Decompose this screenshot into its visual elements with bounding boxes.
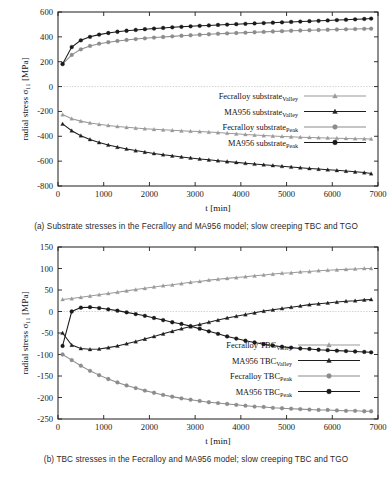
y-axis-tick-label: 0 (49, 82, 53, 92)
series-marker (216, 32, 220, 36)
series-marker (298, 347, 302, 351)
legend-label: MA956 TBCPeak (236, 388, 293, 398)
series-marker (362, 350, 366, 354)
series-marker (198, 33, 202, 37)
series-marker (335, 409, 339, 413)
y-axis-label: radial stress σ₁₁ [MPa] (20, 57, 30, 140)
series-marker (70, 358, 74, 362)
series-marker (369, 17, 373, 21)
series-marker (298, 20, 302, 24)
series-marker (152, 36, 156, 40)
series-marker (170, 320, 174, 324)
y-axis-tick-label: -150 (37, 371, 53, 381)
series-marker (317, 348, 321, 352)
x-axis-label: t [min] (205, 436, 230, 446)
series-marker (189, 33, 193, 37)
series-marker (253, 30, 257, 34)
series-marker (180, 25, 184, 29)
series-marker (335, 18, 339, 22)
x-axis-tick-label: 4000 (232, 189, 249, 199)
series-marker (116, 381, 120, 385)
series-marker (262, 30, 266, 34)
series-group (61, 353, 373, 414)
series-marker (253, 22, 257, 26)
series-marker (88, 35, 92, 39)
series-line (63, 307, 372, 352)
series-marker (180, 396, 184, 400)
series-marker (308, 408, 312, 412)
legend-label: Fecralloy TBCPeak (230, 372, 293, 382)
series-marker (61, 122, 65, 126)
y-axis-tick-label: -50 (42, 328, 53, 338)
x-axis-tick-label: 0 (56, 189, 60, 199)
series-marker (189, 324, 193, 328)
x-axis-tick-label: 3000 (187, 189, 204, 199)
y-axis-label: radial stress σ₁₁ [MPa] (20, 291, 30, 374)
series-marker (225, 402, 229, 406)
legend-label-subscript: Peak (286, 126, 299, 133)
legend-label: Fecralloy substratePeak (222, 123, 298, 133)
series-marker (97, 42, 101, 46)
series-marker (253, 405, 257, 409)
series-marker (134, 28, 138, 32)
y-axis-tick-label: -250 (37, 414, 53, 424)
series-marker (362, 17, 366, 21)
series-marker (143, 36, 147, 40)
series-marker (225, 335, 229, 339)
y-axis-tick-label: -400 (37, 131, 53, 141)
series-marker (280, 20, 284, 24)
x-axis-tick-label: 7000 (369, 422, 386, 432)
series-marker (125, 310, 129, 314)
series-marker (106, 377, 110, 381)
series-marker (88, 369, 92, 373)
panel-a: 6004002000-200-400-600-80001000200030004… (0, 0, 392, 231)
series-marker (289, 407, 293, 411)
x-axis-tick-label: 2000 (141, 422, 158, 432)
series-marker (97, 33, 101, 37)
x-axis-tick-label: 7000 (369, 189, 386, 199)
x-axis-tick-label: 4000 (232, 422, 249, 432)
series-marker (170, 395, 174, 399)
series-marker (152, 391, 156, 395)
legend-label-subscript: Valley (276, 360, 293, 367)
x-axis-tick-label: 3000 (187, 422, 204, 432)
series-marker (170, 25, 174, 29)
series-marker (234, 403, 238, 407)
x-axis-tick-label: 1000 (95, 189, 112, 199)
y-axis-tick-label: 200 (40, 57, 53, 67)
chart-tbc-stresses: 150100500-50-100-150-200-250010002000300… (0, 237, 392, 455)
y-axis-tick-label: 0 (49, 307, 53, 317)
series-marker (234, 22, 238, 26)
series-marker (298, 407, 302, 411)
series-line (63, 299, 372, 349)
series-group (61, 267, 373, 301)
figure-container: 6004002000-200-400-600-80001000200030004… (0, 0, 392, 492)
x-axis-tick-label: 2000 (141, 189, 158, 199)
series-marker (198, 399, 202, 403)
series-marker (180, 322, 184, 326)
series-marker (180, 34, 184, 38)
x-axis-label: t [min] (205, 203, 230, 213)
series-marker (333, 140, 338, 145)
series-marker (79, 47, 83, 51)
series-marker (97, 306, 101, 310)
series-marker (134, 386, 138, 390)
legend-label-subscript: Valley (282, 95, 299, 102)
legend-label-subscript: Peak (280, 391, 293, 398)
series-marker (362, 27, 366, 31)
series-marker (244, 22, 248, 26)
series-marker (61, 62, 65, 66)
series-marker (317, 28, 321, 32)
series-marker (216, 332, 220, 336)
series-marker (88, 44, 92, 48)
series-marker (70, 53, 74, 57)
chart-substrate-stresses: 6004002000-200-400-600-80001000200030004… (0, 0, 392, 222)
series-marker (262, 21, 266, 25)
series-marker (143, 27, 147, 31)
series-marker (61, 113, 65, 117)
series-marker (161, 318, 165, 322)
series-marker (125, 38, 129, 42)
series-marker (70, 45, 74, 49)
series-marker (207, 24, 211, 28)
series-marker (353, 17, 357, 21)
